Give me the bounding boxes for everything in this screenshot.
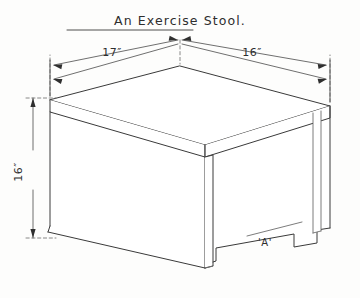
right-rear-post-face — [313, 111, 321, 233]
front-corner-post-face — [205, 155, 213, 268]
dimension-label-top-left: 17″ — [102, 46, 121, 59]
technical-drawing-sheet: An Exercise Stool. 17″ 16″ 16″ 'A' — [0, 0, 360, 298]
arrow-head-icon — [30, 229, 35, 238]
stool-isometric-drawing: An Exercise Stool. 17″ 16″ 16″ 'A' — [0, 0, 360, 298]
dimension-label-top-right: 16″ — [242, 46, 261, 59]
drawing-title: An Exercise Stool. — [114, 13, 246, 28]
arrow-head-icon — [30, 98, 35, 107]
dimension-label-height: 16″ — [12, 162, 25, 181]
part-label-a: 'A' — [258, 237, 272, 248]
arrow-head-icon — [52, 77, 62, 84]
stool-object — [48, 66, 330, 268]
